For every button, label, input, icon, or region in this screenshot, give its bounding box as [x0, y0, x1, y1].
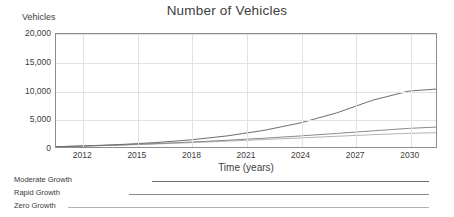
legend-label: Zero Growth [14, 201, 56, 210]
y-axis-tick-label: 0 [3, 143, 51, 153]
y-axis-tick-label: 15,000 [3, 57, 51, 67]
x-axis-tick-label: 2030 [400, 150, 419, 160]
gridline-horizontal [56, 120, 436, 121]
gridline-vertical [83, 34, 84, 147]
x-axis-label: Time (years) [55, 162, 437, 173]
legend-label: Moderate Growth [14, 175, 72, 184]
y-axis-tick-label: 10,000 [3, 86, 51, 96]
y-axis-label: Vehicles [22, 12, 56, 22]
legend-line-swatch [129, 194, 429, 195]
series-line [56, 127, 436, 147]
chart-container: Number of Vehicles Vehicles 05,00010,000… [0, 0, 454, 217]
legend-label: Rapid Growth [14, 188, 60, 197]
legend-item: Rapid Growth [0, 188, 454, 200]
gridline-horizontal [56, 92, 436, 93]
plot-area [55, 33, 437, 148]
gridline-vertical [192, 34, 193, 147]
y-axis-tick-label: 5,000 [3, 114, 51, 124]
chart-title: Number of Vehicles [0, 3, 454, 18]
x-axis-tick-label: 2024 [291, 150, 310, 160]
gridline-vertical [138, 34, 139, 147]
x-axis-tick-label: 2027 [346, 150, 365, 160]
x-axis-tick-group: 2012201520182021202420272030 [55, 150, 437, 162]
legend-line-swatch [68, 207, 429, 208]
gridline-vertical [411, 34, 412, 147]
chart-legend: Moderate GrowthRapid GrowthZero Growth [0, 175, 454, 217]
legend-item: Zero Growth [0, 201, 454, 213]
series-lines [56, 34, 436, 147]
x-axis-tick-label: 2021 [237, 150, 256, 160]
gridline-horizontal [56, 63, 436, 64]
x-axis-tick-label: 2015 [127, 150, 146, 160]
gridline-vertical [247, 34, 248, 147]
x-axis-tick-label: 2018 [182, 150, 201, 160]
gridline-horizontal [56, 34, 436, 35]
y-axis-tick-label: 20,000 [3, 28, 51, 38]
legend-line-swatch [152, 181, 429, 182]
gridline-vertical [302, 34, 303, 147]
gridline-vertical [356, 34, 357, 147]
x-axis-tick-label: 2012 [73, 150, 92, 160]
y-axis-tick-group: 05,00010,00015,00020,000 [0, 33, 51, 148]
legend-item: Moderate Growth [0, 175, 454, 187]
series-line [56, 89, 436, 147]
